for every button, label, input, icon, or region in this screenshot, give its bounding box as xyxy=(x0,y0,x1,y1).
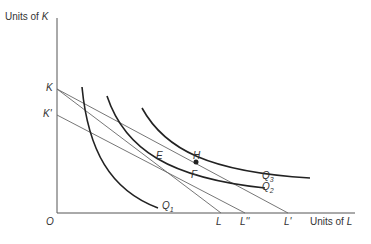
k-prime-intercept-label: K' xyxy=(43,108,52,119)
isocost-line-k-lprime xyxy=(57,89,288,213)
x-axis-label: Units of L xyxy=(310,216,352,227)
l-prime-intercept-label: L' xyxy=(284,216,291,227)
isoquant-diagram xyxy=(0,0,371,244)
y-axis-label: Units of K xyxy=(5,11,48,22)
isoquant-q3 xyxy=(142,108,310,178)
q1-label: Q1 xyxy=(162,200,174,213)
point-h-label: H xyxy=(193,150,200,161)
l-double-prime-intercept-label: L'' xyxy=(240,216,249,227)
point-e-label: E xyxy=(156,150,163,161)
origin-label: O xyxy=(46,216,54,227)
point-f-label: F xyxy=(191,169,197,180)
l-intercept-label: L xyxy=(216,216,222,227)
q3-label: Q3 xyxy=(262,170,274,183)
k-intercept-label: K xyxy=(46,82,53,93)
isoquant-q2 xyxy=(107,96,265,188)
